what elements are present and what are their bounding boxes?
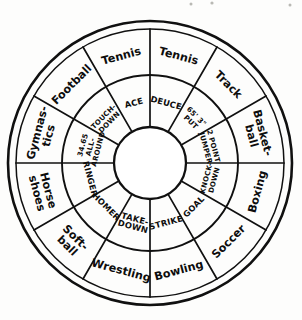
outer-sport-label-line: Bowling: [153, 258, 205, 284]
outer-sport-label-basketball-jumper: Basket-ball: [239, 108, 275, 161]
outer-sport-label-line: Boxing: [246, 169, 270, 214]
wheel-center-hub: [114, 127, 186, 199]
outer-sport-label-wrestling-takedown: Wrestling: [90, 256, 152, 284]
inner-term-label-line: GOAL: [181, 193, 207, 219]
outer-sport-label-gymnastics-all-around: Gymnas-tics: [24, 104, 62, 164]
inner-term-label-soccer-goal: GOAL: [181, 193, 207, 219]
outer-sport-label-track-shot-put: Track: [212, 68, 245, 101]
outer-sport-label-line: Track: [212, 68, 245, 101]
outer-sport-label-boxing-knockdown: Boxing: [246, 169, 270, 214]
outer-sport-label-tennis-deuce: Tennis: [158, 45, 200, 68]
inner-term-label-wrestling-takedown: TAKE-DOWN: [117, 210, 151, 235]
outer-sport-label-line: Tennis: [100, 45, 142, 68]
wheel-diagram: TennisDEUCETrack65' 3"PUTBasket-ball2 PO…: [0, 0, 302, 320]
inner-term-label-line: STRIKE: [148, 213, 184, 232]
outer-sport-label-line: Wrestling: [90, 256, 152, 284]
outer-sport-label-tennis-ace: Tennis: [100, 45, 142, 68]
inner-term-label-basketball-jumper: 2 POINTJUMPER: [197, 128, 222, 165]
outer-sport-label-line: Tennis: [158, 45, 200, 68]
outer-sport-label-softball-homer: Soft-ball: [52, 222, 91, 261]
inner-term-label-tennis-deuce: DEUCE: [149, 94, 183, 112]
inner-term-label-track-shot-put: 65' 3"PUT: [179, 105, 208, 134]
inner-term-label-boxing-knockdown: KNOCK-DOWN: [198, 162, 223, 197]
outer-sport-label-bowling-strike: Bowling: [153, 258, 205, 284]
inner-term-label-line: DEUCE: [149, 94, 183, 112]
inner-term-label-tennis-ace: ACE: [123, 95, 144, 110]
inner-term-label-line: ACE: [123, 95, 144, 110]
sports-terminology-wheel-figure: TennisDEUCETrack65' 3"PUTBasket-ball2 PO…: [0, 0, 302, 320]
paper-specks: [190, 1, 292, 6]
center-hub: [114, 127, 186, 199]
outer-sport-label-horseshoes-ringer: Horseshoes: [26, 171, 59, 213]
outer-sport-label-soccer-goal: Soccer: [209, 222, 248, 261]
inner-term-label-bowling-strike: STRIKE: [148, 213, 184, 232]
outer-sport-label-line: Soccer: [209, 222, 248, 261]
